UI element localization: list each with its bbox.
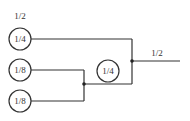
junction-dot-right [130, 59, 134, 63]
output-label: 1/2 [151, 48, 163, 58]
node-2-label: 1/8 [14, 65, 26, 75]
top-label: 1/2 [14, 11, 26, 21]
node-4-label: 1/4 [102, 66, 114, 76]
flow-diagram: 1/2 1/4 1/8 1/8 1/4 1/2 [0, 0, 190, 121]
junction-dot-left [82, 82, 86, 86]
node-3-label: 1/8 [14, 96, 26, 106]
node-1-label: 1/4 [14, 34, 26, 44]
